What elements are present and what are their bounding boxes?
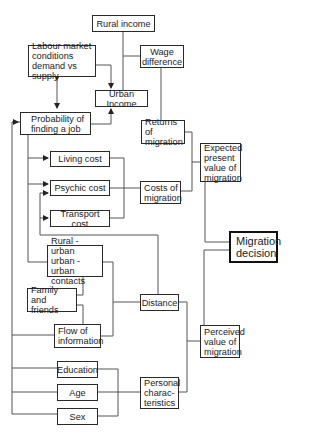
node-label: Distance — [142, 298, 178, 308]
node-labour-market: Labour market conditions demand vs suppl… — [28, 45, 96, 77]
node-label: Age — [69, 388, 85, 398]
node-age: Age — [57, 384, 98, 401]
node-label: Urban Income — [99, 89, 144, 109]
node-expected-value: Expected present value of migration — [200, 143, 241, 182]
node-label: Migration decision — [236, 235, 281, 259]
node-distance: Distance — [140, 294, 179, 311]
node-label: Costs of migration — [144, 183, 182, 203]
node-contacts: Rural - urban urban - urban contacts — [47, 245, 103, 277]
node-label: Family and friends — [31, 285, 73, 315]
node-label: Wage difference — [142, 47, 182, 67]
node-personal-characteristics: Personal charac- teristics — [140, 377, 179, 409]
node-rural-income: Rural income — [92, 15, 155, 32]
node-label: Psychic cost — [54, 183, 105, 193]
node-returns-migration: Returns of migration — [141, 120, 185, 144]
node-label: Living cost — [58, 154, 101, 164]
node-label: Labour market conditions demand vs suppl… — [32, 41, 92, 81]
node-label: Perceived value of migration — [204, 327, 245, 357]
node-costs-migration: Costs of migration — [140, 181, 181, 204]
node-living-cost: Living cost — [50, 151, 110, 167]
node-label: Transport cost — [54, 209, 106, 229]
node-family-friends: Family and friends — [27, 288, 77, 312]
node-label: Rural - urban urban - urban contacts — [51, 236, 99, 286]
node-perceived-value: Perceived value of migration — [200, 325, 240, 358]
node-migration-decision: Migration decision — [229, 231, 278, 263]
node-label: Flow of information — [58, 326, 103, 346]
node-label: Rural income — [96, 19, 150, 29]
node-label: Sex — [70, 412, 86, 422]
node-probability-job: Probability of finding a job — [20, 112, 91, 135]
node-sex: Sex — [57, 408, 98, 425]
node-label: Expected present value of migration — [204, 143, 242, 183]
node-label: Returns of migration — [145, 117, 183, 147]
node-label: Education — [57, 365, 98, 375]
node-education: Education — [57, 361, 98, 378]
node-psychic-cost: Psychic cost — [50, 180, 110, 196]
node-label: Probability of finding a job — [31, 114, 84, 134]
node-transport-cost: Transport cost — [50, 210, 110, 227]
node-wage-difference: Wage difference — [140, 45, 184, 68]
node-label: Personal charac- teristics — [144, 378, 180, 408]
node-urban-income: Urban Income — [95, 90, 148, 107]
node-flow-information: Flow of information — [54, 324, 101, 348]
